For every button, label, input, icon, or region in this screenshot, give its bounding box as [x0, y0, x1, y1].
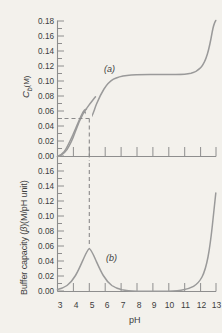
buffer-capacity-curve-b — [58, 193, 216, 291]
panel-b-x-ticks — [73, 283, 216, 292]
panel-a-group — [58, 21, 217, 157]
plot-canvas — [0, 0, 222, 333]
panel-b-y-minor-ticks — [58, 164, 63, 284]
panel-a-x-ticks — [73, 147, 216, 157]
buffer-capacity-figure: Cb(M) Buffer capacity (β)(M/pH unit) 0.1… — [0, 0, 222, 333]
panel-b-y-major-ticks — [58, 171, 65, 291]
panel-a-y-minor-ticks — [58, 29, 63, 149]
panel-b-group — [58, 157, 217, 292]
titration-curve-a-main — [58, 21, 216, 157]
